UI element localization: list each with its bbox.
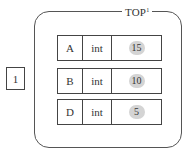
field-value-badge: 10: [129, 74, 145, 88]
field-type-cell: int: [83, 100, 112, 124]
field-value-cell: 5: [112, 100, 161, 124]
field-name-cell: B: [58, 69, 83, 93]
field-type-cell: int: [83, 36, 112, 60]
field-type: int: [91, 106, 103, 118]
field-name: B: [66, 75, 73, 87]
container-title: TOP1: [122, 3, 152, 19]
container-title-text: TOP: [125, 6, 146, 18]
field-name: A: [66, 42, 74, 54]
field-value-cell: 10: [112, 69, 161, 93]
side-node: 1: [6, 67, 25, 90]
field-value-badge: 15: [129, 41, 145, 55]
field-type: int: [91, 42, 103, 54]
field-row-b: B int 10: [57, 68, 162, 94]
field-row-a: A int 15: [57, 35, 162, 61]
field-type: int: [91, 75, 103, 87]
side-node-label: 1: [13, 73, 19, 85]
field-value-cell: 15: [112, 36, 161, 60]
field-name-cell: A: [58, 36, 83, 60]
field-type-cell: int: [83, 69, 112, 93]
field-row-d: D int 5: [57, 99, 162, 125]
field-name-cell: D: [58, 100, 83, 124]
field-name: D: [66, 106, 74, 118]
field-value-badge: 5: [129, 105, 145, 119]
container-title-superscript: 1: [146, 7, 149, 13]
